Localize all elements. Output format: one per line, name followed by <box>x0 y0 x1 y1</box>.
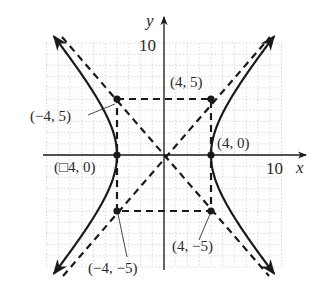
label-4-neg5: (4, −5) <box>172 238 213 255</box>
leader-neg4-neg5 <box>118 214 127 257</box>
point-neg4-neg5 <box>113 207 120 214</box>
label-4-5: (4, 5) <box>170 74 203 91</box>
point-neg4-5 <box>113 95 120 102</box>
x-tick-label: 10 <box>266 159 283 178</box>
y-tick-label: 10 <box>139 36 156 55</box>
point-4-0 <box>207 151 214 158</box>
x-axis-label: x <box>295 158 304 177</box>
hyperbola-chart: y 10 10 x (−4, 5) (4, 5) (4, 0) (□4, 0) … <box>0 0 324 291</box>
label-neg4-5: (−4, 5) <box>30 108 71 125</box>
point-neg4-0 <box>113 151 120 158</box>
leader-4-neg5 <box>199 214 210 240</box>
y-axis-label: y <box>144 11 154 30</box>
label-neg4-neg5: (−4, −5) <box>88 260 137 277</box>
point-4-5 <box>207 95 214 102</box>
label-neg4-0: (□4, 0) <box>54 159 96 176</box>
point-4-neg5 <box>207 207 214 214</box>
label-4-0: (4, 0) <box>217 135 250 152</box>
